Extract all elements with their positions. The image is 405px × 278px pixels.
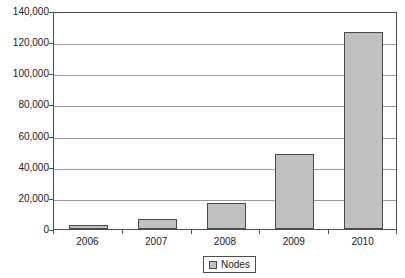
bar-2007 (138, 219, 177, 229)
bar-2006 (69, 225, 108, 229)
x-axis-tick-mark (122, 230, 123, 234)
x-axis-label-2006: 2006 (53, 236, 122, 248)
x-axis-label-2008: 2008 (191, 236, 260, 248)
y-axis-ticks (0, 12, 53, 230)
legend-swatch-icon (209, 261, 217, 269)
legend-label-nodes: Nodes (221, 259, 250, 270)
x-axis-tick-mark (259, 230, 260, 234)
bar-chart: 020,00040,00060,00080,000100,000120,0001… (0, 0, 405, 278)
bar-2008 (207, 203, 246, 229)
bar-2009 (275, 154, 314, 229)
plot-area (53, 12, 397, 230)
x-axis-tick-mark (328, 230, 329, 234)
x-axis-tick-mark (53, 230, 54, 234)
x-axis-tick-mark (396, 230, 397, 234)
x-axis: 20062007200820092010 (53, 230, 397, 252)
x-axis-tick-mark (191, 230, 192, 234)
bar-2010 (344, 32, 383, 229)
chart-legend: Nodes (203, 256, 256, 273)
x-axis-label-2009: 2009 (259, 236, 328, 248)
x-axis-label-2007: 2007 (122, 236, 191, 248)
x-axis-label-2010: 2010 (328, 236, 397, 248)
